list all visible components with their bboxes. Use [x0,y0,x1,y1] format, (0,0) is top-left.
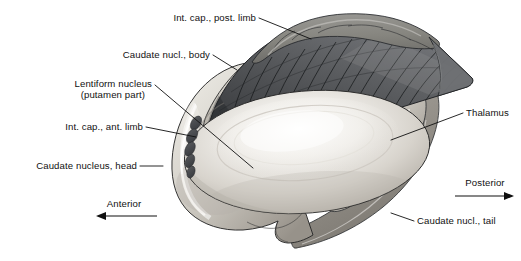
label-caudate-nucl-tail: Caudate nucl., tail [417,215,496,226]
label-int-cap-ant-limb: Int. cap., ant. limb [65,121,143,132]
basal-ganglia-figure: Int. cap., post. limb Caudate nucl., bod… [0,0,521,261]
label-lentiform-nucleus-line1: Lentiform nucleus [75,78,153,89]
anterior-label: Anterior [107,198,142,209]
label-caudate-nucl-body: Caudate nucl., body [123,49,210,60]
anatomical-illustration: Int. cap., post. limb Caudate nucl., bod… [0,0,521,261]
label-thalamus: Thalamus [466,107,509,118]
label-int-cap-post-limb: Int. cap., post. limb [173,12,256,23]
posterior-label: Posterior [465,177,505,188]
label-caudate-nucleus-head: Caudate nucleus, head [36,160,137,171]
label-lentiform-nucleus-line2: (putamen part) [81,89,145,100]
